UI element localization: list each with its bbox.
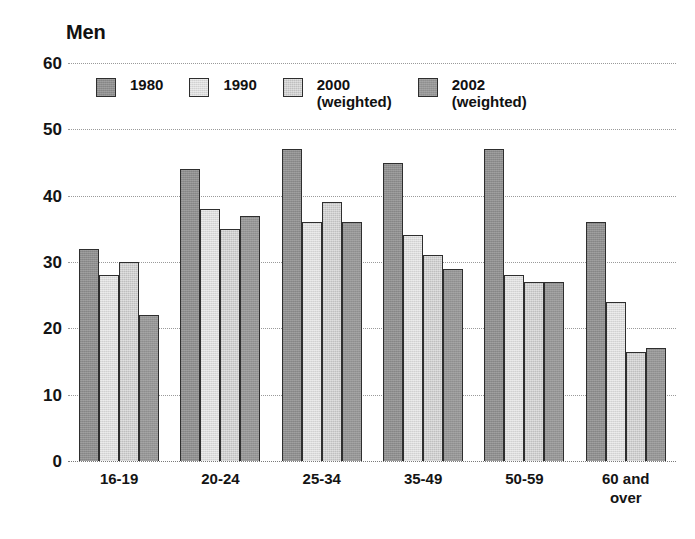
legend-entry-1980[interactable]: 1980 [96,76,163,97]
plot-area [68,63,676,461]
chart-container: Men 0102030405060 16-1920-2425-3435-4950… [0,0,695,539]
legend-entry-2000[interactable]: 2000 (weighted) [283,76,392,111]
x-tick-label-25-34: 25-34 [264,470,380,489]
bar-1980-25-34[interactable] [282,149,302,461]
bar-2002-60 and[interactable] [646,348,666,461]
legend-swatch-1990-icon [189,78,209,97]
bar-group-35-49 [383,63,463,461]
bar-2002-16-19[interactable] [139,315,159,461]
bar-1990-35-49[interactable] [403,235,423,461]
x-tick-label-60 and: 60 and over [568,470,684,508]
page-title: Men [66,22,105,42]
bar-group-25-34 [282,63,362,461]
bar-1990-50-59[interactable] [504,275,524,461]
y-tick-label-0: 0 [16,453,62,470]
y-tick-label-20: 20 [16,320,62,337]
y-tick-label-50: 50 [16,121,62,138]
bar-1990-60 and[interactable] [606,302,626,461]
bar-2000-20-24[interactable] [220,229,240,461]
bar-1990-25-34[interactable] [302,222,322,461]
legend-label-1990: 1990 [223,76,256,93]
x-tick-label-50-59: 50-59 [466,470,582,489]
x-tick-label-16-19: 16-19 [61,470,177,489]
bar-group-20-24 [180,63,260,461]
y-axis: 0102030405060 [10,63,62,461]
x-tick-label-20-24: 20-24 [162,470,278,489]
bar-2002-25-34[interactable] [342,222,362,461]
bar-2002-50-59[interactable] [544,282,564,461]
y-tick-label-10: 10 [16,386,62,403]
bar-group-60-and-over [586,63,666,461]
legend-swatch-1980-icon [96,78,116,97]
x-tick-label-35-49: 35-49 [365,470,481,489]
legend-swatch-2002-icon [418,78,438,97]
y-tick-label-60: 60 [16,55,62,72]
legend-swatch-2000-icon [283,78,303,97]
bar-2002-20-24[interactable] [240,216,260,461]
legend-label-1980: 1980 [130,76,163,93]
legend-label-2000: 2000 (weighted) [317,76,392,111]
legend-label-2002: 2002 (weighted) [452,76,527,111]
bar-1980-60 and[interactable] [586,222,606,461]
bar-1980-20-24[interactable] [180,169,200,461]
bar-1980-16-19[interactable] [79,249,99,461]
bar-1980-35-49[interactable] [383,163,403,462]
y-tick-label-30: 30 [16,254,62,271]
legend-entry-1990[interactable]: 1990 [189,76,256,97]
bars-layer [68,63,676,461]
bar-2000-60 and[interactable] [626,352,646,461]
bar-1980-50-59[interactable] [484,149,504,461]
bar-2002-35-49[interactable] [443,269,463,461]
bar-1990-20-24[interactable] [200,209,220,461]
bar-1990-16-19[interactable] [99,275,119,461]
bar-2000-35-49[interactable] [423,255,443,461]
gridline-0 [68,461,676,462]
bar-group-50-59 [484,63,564,461]
bar-group-16-19 [79,63,159,461]
legend-entry-2002[interactable]: 2002 (weighted) [418,76,527,111]
x-axis: 16-1920-2425-3435-4950-5960 and over [68,470,676,530]
bar-2000-16-19[interactable] [119,262,139,461]
bar-2000-50-59[interactable] [524,282,544,461]
bar-2000-25-34[interactable] [322,202,342,461]
chart-legend: 198019902000 (weighted)2002 (weighted) [96,76,553,111]
y-tick-label-40: 40 [16,187,62,204]
